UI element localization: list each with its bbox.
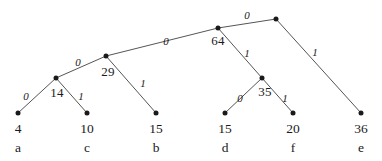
leaf-weight-label: 4 — [15, 121, 22, 137]
leaf-node-dot — [154, 111, 159, 116]
edge-bit-label: 1 — [312, 46, 318, 58]
leaf-node-dot — [16, 111, 21, 116]
edge-bit-label: 0 — [244, 9, 250, 21]
internal-node-dot — [54, 76, 59, 81]
edge-bit-label: 1 — [244, 47, 250, 59]
leaf-weight-label: 36 — [354, 121, 368, 137]
edge-bit-label: 1 — [78, 90, 84, 102]
edge-bit-label: 0 — [237, 92, 243, 104]
leaf-node-dot — [223, 111, 228, 116]
leaf-symbol-label: f — [291, 140, 296, 156]
leaf-symbol-label: e — [358, 140, 364, 156]
tree-edge — [106, 28, 218, 56]
internal-node-weight: 29 — [101, 64, 114, 80]
leaf-weight-label: 15 — [149, 121, 163, 137]
leaf-weight-label: 20 — [286, 121, 300, 137]
leaf-node-dot — [291, 111, 296, 116]
tree-edge — [225, 78, 262, 113]
internal-node-dot — [260, 76, 265, 81]
leaf-node-dot — [85, 111, 90, 116]
internal-node-weight: 14 — [50, 85, 63, 101]
internal-node-dot — [216, 26, 221, 31]
edge-bit-label: 1 — [140, 77, 146, 89]
internal-node-weight: 64 — [211, 33, 224, 49]
internal-node-weight: 35 — [258, 84, 271, 100]
leaf-symbol-label: b — [153, 140, 160, 156]
leaf-symbol-label: a — [15, 140, 21, 156]
leaf-weight-label: 10 — [80, 121, 94, 137]
leaf-symbol-label: c — [84, 140, 90, 156]
huffman-tree-figure: 01010101016429143541015152036acbdfe — [0, 0, 382, 161]
leaf-node-dot — [359, 111, 364, 116]
edge-bit-label: 0 — [23, 90, 29, 102]
edge-bit-label: 1 — [282, 92, 288, 104]
internal-node-dot — [274, 17, 279, 22]
tree-edges-layer — [0, 0, 382, 161]
internal-node-dot — [104, 54, 109, 59]
leaf-symbol-label: d — [222, 140, 229, 156]
edge-bit-label: 0 — [75, 56, 81, 68]
tree-edge — [276, 19, 361, 113]
leaf-weight-label: 15 — [218, 121, 232, 137]
edge-bit-label: 0 — [163, 35, 169, 47]
